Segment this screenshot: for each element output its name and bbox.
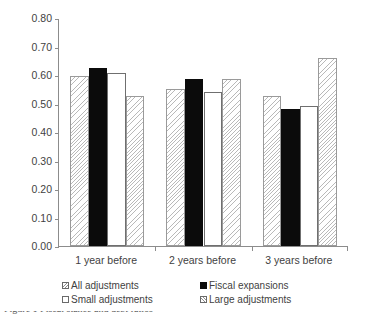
legend-label: Small adjustments bbox=[71, 293, 153, 306]
clipped-caption: Figure 1 Fiscal stance and debt ratios bbox=[4, 311, 361, 320]
y-axis-tick-label: 0.60 bbox=[32, 69, 52, 82]
bar bbox=[222, 79, 241, 246]
bar bbox=[318, 58, 337, 246]
legend-label: All adjustments bbox=[71, 279, 139, 292]
bar bbox=[126, 96, 145, 246]
bar bbox=[204, 92, 223, 246]
bar bbox=[263, 96, 282, 246]
bar bbox=[300, 106, 319, 246]
y-axis-tick-label: 0.30 bbox=[32, 155, 52, 168]
clipped-caption-text: Figure 1 Fiscal stance and debt ratios bbox=[4, 311, 361, 314]
legend-entry: Small adjustments bbox=[62, 292, 180, 306]
x-axis-separator bbox=[155, 246, 156, 251]
legend-label: Fiscal expansions bbox=[209, 279, 288, 292]
legend-swatch-icon bbox=[200, 296, 207, 303]
x-axis-label: 3 years before bbox=[251, 253, 347, 268]
bar-series-container bbox=[59, 19, 347, 246]
y-axis-tick-label: 0.40 bbox=[32, 126, 52, 139]
legend-swatch-icon bbox=[200, 282, 207, 289]
x-axis-separator bbox=[252, 246, 253, 251]
y-axis-tick-label: 0.20 bbox=[32, 183, 52, 196]
x-axis-label: 1 year before bbox=[58, 253, 154, 268]
bar bbox=[89, 68, 108, 246]
legend-entry: Fiscal expansions bbox=[188, 278, 342, 292]
x-axis-labels: 1 year before2 years before3 years befor… bbox=[58, 253, 347, 269]
y-axis-tick-label: 0.10 bbox=[32, 212, 52, 225]
bar bbox=[107, 73, 126, 246]
y-axis-tick-label: 0.50 bbox=[32, 98, 52, 111]
bar bbox=[166, 89, 185, 246]
bar bbox=[185, 79, 204, 246]
legend-label: Large adjustments bbox=[209, 293, 291, 306]
x-axis-separator bbox=[347, 246, 348, 251]
chart-legend: All adjustmentsFiscal expansionsSmall ad… bbox=[62, 278, 342, 306]
plot-area: 0.800.700.600.500.400.300.200.100.00 bbox=[58, 19, 347, 247]
y-axis-tick-mark bbox=[55, 247, 59, 248]
legend-swatch-icon bbox=[62, 296, 69, 303]
legend-entry: Large adjustments bbox=[188, 292, 342, 306]
bar bbox=[281, 109, 300, 246]
y-axis-tick-label: 0.80 bbox=[32, 12, 52, 25]
y-axis-tick-label: 0.00 bbox=[32, 240, 52, 253]
figure: 0.800.700.600.500.400.300.200.100.00 1 y… bbox=[0, 0, 365, 320]
legend-entry: All adjustments bbox=[62, 278, 180, 292]
legend-swatch-icon bbox=[62, 282, 69, 289]
bar bbox=[70, 76, 89, 246]
y-axis-tick-label: 0.70 bbox=[32, 41, 52, 54]
x-axis-label: 2 years before bbox=[154, 253, 250, 268]
